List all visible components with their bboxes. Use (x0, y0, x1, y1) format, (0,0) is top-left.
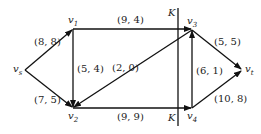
cut-label-top: K (168, 8, 175, 18)
node-v1: v1 (68, 15, 78, 29)
edge-label-v2-v4: (9, 9) (117, 112, 144, 122)
node-vt: vt (245, 64, 253, 78)
node-v4: v4 (187, 111, 197, 125)
edge-label-vs-v2: (7, 5) (34, 95, 61, 105)
edge-label-v1-v3: (9, 4) (117, 15, 144, 25)
node-vs: vs (13, 64, 22, 78)
node-v3: v3 (187, 16, 197, 30)
edge-label-v4-vt: (10, 8) (214, 94, 247, 104)
edge-label-v1-v2: (5, 4) (77, 64, 104, 74)
edge-label-v4-v3: (6, 1) (196, 66, 223, 76)
edge-label-v3-v2: (2, 0) (112, 63, 139, 73)
edge-label-vs-v1: (8, 8) (34, 37, 61, 47)
flow-network-diagram: vs v1 v2 v3 v4 vt (8, 8) (7, 5) (5, 4) (… (0, 0, 261, 134)
cut-label-bottom: K (168, 113, 175, 123)
edge-label-v3-vt: (5, 5) (214, 37, 241, 47)
node-v2: v2 (68, 111, 78, 125)
